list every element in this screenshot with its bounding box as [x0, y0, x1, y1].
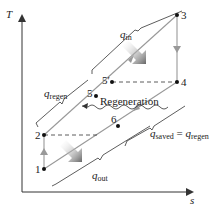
label-5: 5: [87, 87, 93, 99]
label-4: 4: [181, 76, 187, 88]
q-regen-label: qregen: [44, 87, 67, 101]
point-6: [116, 124, 120, 128]
x-axis-label: s: [190, 194, 194, 206]
point-3: [175, 13, 179, 17]
arrow-up-icon: [40, 148, 48, 155]
heat-labels: qin qregen qout qsaved = qregen Regenera…: [44, 28, 209, 183]
heat-out-arrow-icon: [60, 140, 82, 162]
t-s-diagram: T s 1: [0, 0, 220, 211]
point-4: [175, 80, 179, 84]
q-saved-label: qsaved = qregen: [150, 127, 209, 141]
q-in-label: qin: [120, 28, 132, 42]
point-2: [42, 133, 46, 137]
label-6: 6: [111, 113, 117, 125]
regeneration-arrowhead-icon: [82, 103, 88, 109]
label-5prime: 5′: [102, 74, 110, 86]
point-5prime: [110, 80, 114, 84]
dashed-lines: [44, 82, 177, 135]
label-1: 1: [35, 163, 41, 175]
label-2: 2: [35, 129, 41, 141]
label-3: 3: [181, 9, 187, 21]
q-out-label: qout: [92, 169, 109, 183]
regeneration-label: Regeneration: [100, 95, 159, 107]
brace-q-in: [92, 11, 182, 74]
point-1: [42, 167, 46, 171]
y-axis-label: T: [6, 8, 13, 20]
arrow-down-icon: [173, 46, 181, 53]
heat-in-arrow-icon: [122, 40, 146, 64]
point-5: [94, 94, 98, 98]
